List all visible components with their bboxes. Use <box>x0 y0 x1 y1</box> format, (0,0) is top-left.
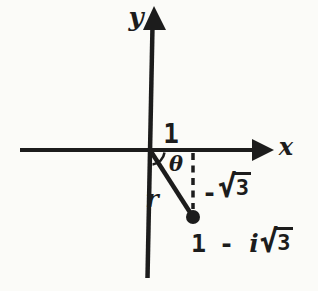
radius-label: r <box>145 186 158 211</box>
sqrt-radical: √ 3 <box>260 226 293 257</box>
sqrt-radicand: 3 <box>275 227 292 254</box>
complex-plane-diagram: y x 1 θ r - √ 3 1 - i √ 3 <box>0 0 318 291</box>
point-value-label: 1 - i √ 3 <box>191 226 293 257</box>
point-real-part: 1 <box>191 231 206 256</box>
imaginary-part-label: - √ 3 <box>202 171 251 205</box>
angle-theta-label: θ <box>169 153 183 174</box>
sqrt-radical: √ 3 <box>218 171 251 202</box>
point-dot <box>186 210 200 224</box>
x-axis-label: x <box>279 135 293 159</box>
x-axis-arrowhead-icon <box>252 139 274 161</box>
minus-sign: - <box>219 231 234 256</box>
imaginary-unit: i <box>249 231 259 256</box>
y-axis-label: y <box>128 4 143 30</box>
y-axis-arrowhead-icon <box>143 6 166 30</box>
real-part-label: 1 <box>163 121 179 147</box>
sqrt-radicand: 3 <box>234 172 251 199</box>
minus-sign: - <box>202 180 217 205</box>
